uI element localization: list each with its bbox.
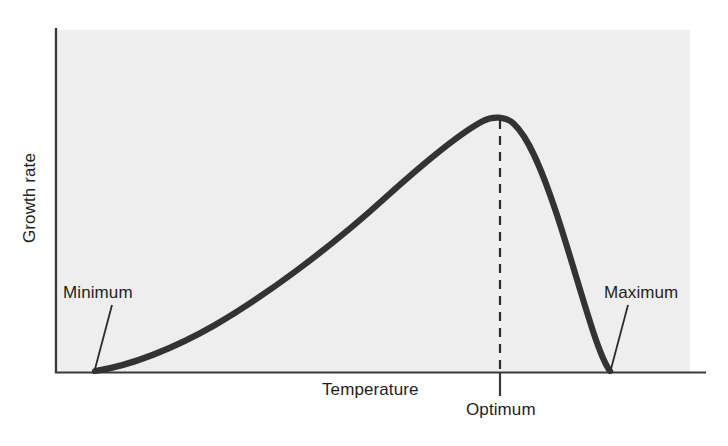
- x-axis-label: Temperature: [322, 380, 419, 400]
- plot-area-background: [58, 30, 690, 372]
- maximum-annotation-label: Maximum: [604, 283, 678, 303]
- growth-rate-temperature-figure: Growth rate Temperature Minimum Optimum …: [0, 0, 728, 446]
- optimum-annotation-label: Optimum: [466, 400, 536, 420]
- minimum-annotation-label: Minimum: [63, 283, 133, 303]
- y-axis-label: Growth rate: [20, 138, 40, 258]
